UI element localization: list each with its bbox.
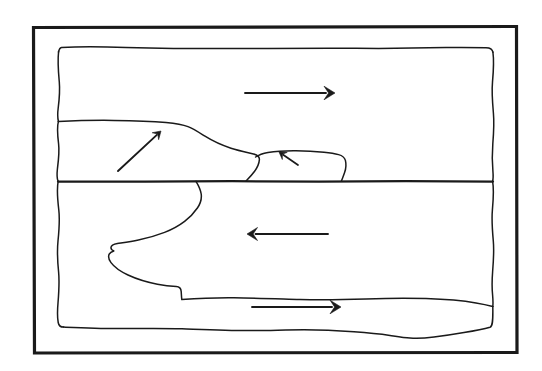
figure-root [0, 0, 542, 371]
diagram-canvas [0, 0, 542, 371]
paper-background [0, 0, 542, 371]
